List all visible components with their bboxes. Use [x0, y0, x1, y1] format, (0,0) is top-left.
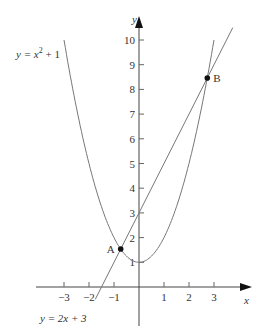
parabola-equation-label: y = x2 + 1: [15, 46, 60, 60]
point-b: [205, 75, 211, 81]
graph-svg: −3−2−1123 12345678910 AB y x y = x2 + 1 …: [0, 0, 266, 336]
y-ticks: 12345678910: [124, 34, 144, 268]
x-axis-arrow-icon: [240, 283, 252, 291]
x-tick-label: −3: [58, 291, 70, 303]
y-axis: [135, 16, 143, 326]
line-equation-label: y = 2x + 3: [39, 312, 87, 324]
y-tick-label: 3: [130, 207, 136, 219]
y-tick-label: 5: [130, 158, 136, 170]
x-axis-label: x: [243, 294, 249, 306]
line-curve: [95, 28, 233, 300]
x-ticks: −3−2−1123: [58, 282, 217, 303]
y-tick-label: 7: [130, 108, 136, 120]
y-tick-label: 1: [130, 256, 136, 268]
y-tick-label: 2: [130, 232, 136, 244]
diagram-canvas: −3−2−1123 12345678910 AB y x y = x2 + 1 …: [0, 0, 266, 336]
point-label-a: A: [107, 243, 115, 255]
point-label-b: B: [213, 72, 220, 84]
point-a: [118, 246, 124, 252]
x-axis: [36, 283, 252, 291]
x-tick-label: 1: [161, 291, 167, 303]
y-tick-label: 6: [130, 133, 136, 145]
y-tick-label: 4: [130, 182, 136, 194]
x-tick-label: 2: [186, 291, 192, 303]
x-tick-label: −2: [83, 291, 95, 303]
y-tick-label: 8: [130, 83, 136, 95]
x-tick-label: −1: [108, 291, 120, 303]
y-tick-label: 9: [130, 59, 136, 71]
x-tick-label: 3: [211, 291, 217, 303]
y-axis-label: y: [131, 13, 137, 25]
y-tick-label: 10: [124, 34, 136, 46]
